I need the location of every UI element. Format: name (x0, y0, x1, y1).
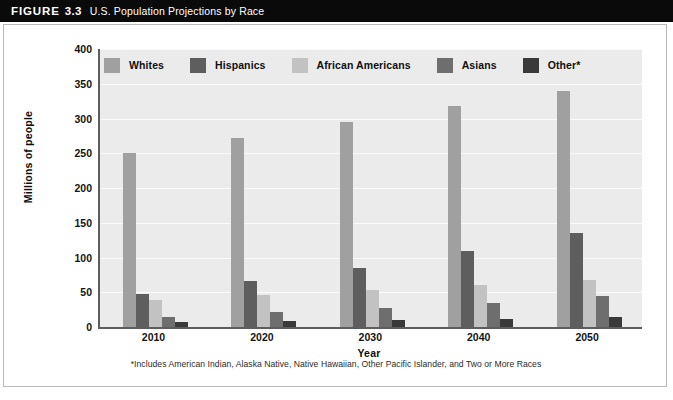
bar (500, 319, 513, 327)
bar (474, 285, 487, 327)
x-axis-title: Year (98, 347, 640, 359)
figure-title: U.S. Population Projections by Race (90, 5, 265, 17)
legend-label: Whites (129, 59, 164, 71)
legend-swatch-icon (190, 58, 206, 73)
figure-container: FIGURE 3.3 U.S. Population Projections b… (0, 0, 673, 400)
y-axis-tick-label: 150 (58, 218, 92, 228)
bar (487, 303, 500, 327)
bar (392, 320, 405, 327)
y-axis-tick-label: 400 (58, 44, 92, 54)
legend-item: Other* (523, 58, 581, 73)
legend-label: Asians (462, 59, 497, 71)
bar (583, 280, 596, 327)
figure-body-panel: 050100150200250300350400 Millions of peo… (3, 24, 667, 387)
bar (149, 300, 162, 327)
bar (557, 91, 570, 327)
bar (162, 317, 175, 327)
legend-item: Hispanics (190, 58, 266, 73)
legend-swatch-icon (292, 58, 308, 73)
bar (270, 312, 283, 327)
bar (340, 122, 353, 327)
bar (366, 290, 379, 327)
bar (244, 281, 257, 327)
x-axis-tick-label: 2020 (232, 331, 292, 343)
bar (123, 153, 136, 327)
x-axis-tick-label: 2030 (340, 331, 400, 343)
y-axis-tick-label: 100 (58, 253, 92, 263)
y-axis-tick-label: 300 (58, 114, 92, 124)
chart-legend: WhitesHispanicsAfrican AmericansAsiansOt… (104, 54, 634, 76)
y-axis-title: Millions of people (22, 97, 34, 217)
bar-group (448, 49, 513, 327)
plot-area (98, 49, 642, 329)
y-axis-tick-label: 200 (58, 183, 92, 193)
figure-number: 3.3 (65, 5, 82, 17)
figure-header-bar: FIGURE 3.3 U.S. Population Projections b… (0, 0, 673, 22)
legend-swatch-icon (104, 58, 120, 73)
figure-label: FIGURE (11, 5, 60, 17)
y-axis-tick-label: 50 (58, 287, 92, 297)
x-axis-tick-label: 2040 (449, 331, 509, 343)
x-axis-ticks: 20102020203020402050 (98, 331, 640, 347)
bar (461, 251, 474, 327)
legend-swatch-icon (437, 58, 453, 73)
figure-footnote: *Includes American Indian, Alaska Native… (4, 359, 668, 369)
legend-item: African Americans (292, 58, 411, 73)
bar-chart: 050100150200250300350400 Millions of peo… (4, 25, 668, 388)
y-axis-ticks: 050100150200250300350400 (54, 49, 92, 327)
bar (609, 317, 622, 327)
legend-item: Asians (437, 58, 497, 73)
bar (257, 295, 270, 327)
bar (283, 321, 296, 327)
x-axis-tick-label: 2010 (124, 331, 184, 343)
bar (570, 233, 583, 327)
legend-item: Whites (104, 58, 164, 73)
legend-label: African Americans (317, 59, 411, 71)
legend-label: Other* (548, 59, 581, 71)
bar (448, 106, 461, 327)
bar-group (123, 49, 188, 327)
bar-group (340, 49, 405, 327)
bar (136, 294, 149, 327)
bar (379, 308, 392, 327)
legend-swatch-icon (523, 58, 539, 73)
bar (596, 296, 609, 327)
legend-label: Hispanics (215, 59, 266, 71)
bars-layer (100, 49, 642, 327)
x-axis-tick-label: 2050 (557, 331, 617, 343)
bar-group (231, 49, 296, 327)
y-axis-tick-label: 350 (58, 79, 92, 89)
bar (175, 322, 188, 327)
y-axis-tick-label: 0 (58, 322, 92, 332)
bar-group (557, 49, 622, 327)
bar (231, 138, 244, 327)
y-axis-tick-label: 250 (58, 148, 92, 158)
bar (353, 268, 366, 327)
